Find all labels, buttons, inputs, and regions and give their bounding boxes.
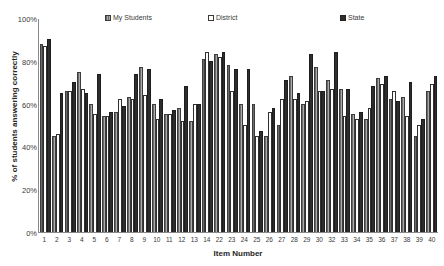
bar-group [89, 19, 101, 232]
bar [334, 52, 338, 232]
bar-group [176, 19, 188, 232]
x-axis-title: Item Number [38, 249, 438, 258]
y-axis-tick-label: 60% [3, 100, 37, 109]
bar-group [388, 19, 400, 232]
bar-group [426, 19, 438, 232]
plot-area [38, 19, 438, 233]
x-axis-tick-label: 34 [351, 235, 364, 246]
bar [109, 112, 113, 232]
x-axis-tick-label: 23 [226, 235, 239, 246]
x-axis-tick-label: 1 [38, 235, 51, 246]
bar-group [301, 19, 313, 232]
x-axis-tick-label: 12 [176, 235, 189, 246]
bar [222, 52, 226, 232]
bar-group [201, 19, 213, 232]
bar-group [39, 19, 51, 232]
x-axis-tick-label: 8 [126, 235, 139, 246]
bar [159, 99, 163, 232]
x-axis-tick-label: 28 [288, 235, 301, 246]
bar-group [139, 19, 151, 232]
bar [434, 76, 438, 232]
bar [421, 119, 425, 232]
x-axis-tick-label: 10 [151, 235, 164, 246]
bar-group [263, 19, 275, 232]
bar-group [226, 19, 238, 232]
bar [297, 93, 301, 232]
bar-group [338, 19, 350, 232]
bar [409, 82, 413, 232]
x-axis-tick-label: 14 [201, 235, 214, 246]
bar [172, 110, 176, 232]
bar [47, 39, 51, 232]
x-axis-tick-label: 3 [63, 235, 76, 246]
x-axis-tick-label: 33 [338, 235, 351, 246]
x-axis-tick-label: 22 [213, 235, 226, 246]
bar [371, 86, 375, 232]
bar-group [151, 19, 163, 232]
y-axis-tick-label: 100% [3, 15, 37, 24]
x-axis-tick-label: 13 [188, 235, 201, 246]
bar [184, 86, 188, 232]
bar [309, 54, 313, 232]
bar-groups [39, 19, 438, 232]
bar-group [276, 19, 288, 232]
x-axis-tick-label: 36 [376, 235, 389, 246]
bar [72, 82, 76, 232]
y-axis-ticks: 100%80%60%40%20%0% [0, 0, 37, 266]
bar [384, 76, 388, 232]
x-axis-tick-label: 24 [238, 235, 251, 246]
y-axis-tick-label: 40% [3, 143, 37, 152]
x-axis-tick-label: 35 [363, 235, 376, 246]
bar [97, 74, 101, 232]
bar [284, 80, 288, 232]
x-axis-ticks: 1234567891011121314222324252627282930323… [38, 235, 438, 246]
x-axis-tick-label: 37 [388, 235, 401, 246]
bar-group [288, 19, 300, 232]
bar [85, 93, 89, 232]
bar-group [126, 19, 138, 232]
x-axis-tick-label: 38 [401, 235, 414, 246]
bar [134, 74, 138, 232]
x-axis-tick-label: 7 [113, 235, 126, 246]
x-axis-tick-label: 6 [101, 235, 114, 246]
bar-group [351, 19, 363, 232]
bar-group [114, 19, 126, 232]
bar-group [189, 19, 201, 232]
bar [147, 69, 151, 232]
bar [197, 104, 201, 232]
bar-group [413, 19, 425, 232]
x-axis-tick-label: 30 [313, 235, 326, 246]
bar-group [76, 19, 88, 232]
x-axis-tick-label: 32 [326, 235, 339, 246]
x-axis-tick-label: 40 [426, 235, 439, 246]
x-axis-tick-label: 5 [88, 235, 101, 246]
bar [234, 69, 238, 232]
x-axis-tick-label: 9 [138, 235, 151, 246]
bar-group [313, 19, 325, 232]
bar-group [214, 19, 226, 232]
bar-group [376, 19, 388, 232]
bar [321, 91, 325, 232]
bar [209, 61, 213, 232]
bar-group [326, 19, 338, 232]
bar [346, 89, 350, 232]
bar [272, 108, 276, 232]
bar [259, 131, 263, 232]
bar-group [401, 19, 413, 232]
bar-group [363, 19, 375, 232]
bar-group [101, 19, 113, 232]
x-axis-tick-label: 25 [251, 235, 264, 246]
x-axis-tick-label: 29 [301, 235, 314, 246]
bar-group [51, 19, 63, 232]
bar [359, 112, 363, 232]
bar-group [239, 19, 251, 232]
x-axis-tick-label: 2 [51, 235, 64, 246]
x-axis-tick-label: 4 [76, 235, 89, 246]
bar [396, 101, 400, 232]
y-axis-tick-label: 0% [3, 229, 37, 238]
bar-group [164, 19, 176, 232]
bar [247, 69, 251, 232]
bar-group [251, 19, 263, 232]
y-axis-tick-label: 80% [3, 57, 37, 66]
bar-chart: My Students District State % of students… [0, 0, 444, 266]
